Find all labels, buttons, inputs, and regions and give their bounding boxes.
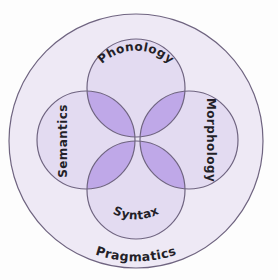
- semantics-label: Semantics: [56, 104, 70, 178]
- venn-diagram-figure: Phonology Morphology Syntax Semantics Pr…: [0, 0, 278, 280]
- morphology-label: Morphology: [204, 98, 218, 182]
- venn-diagram-svg: Phonology Morphology Syntax Semantics Pr…: [0, 0, 278, 280]
